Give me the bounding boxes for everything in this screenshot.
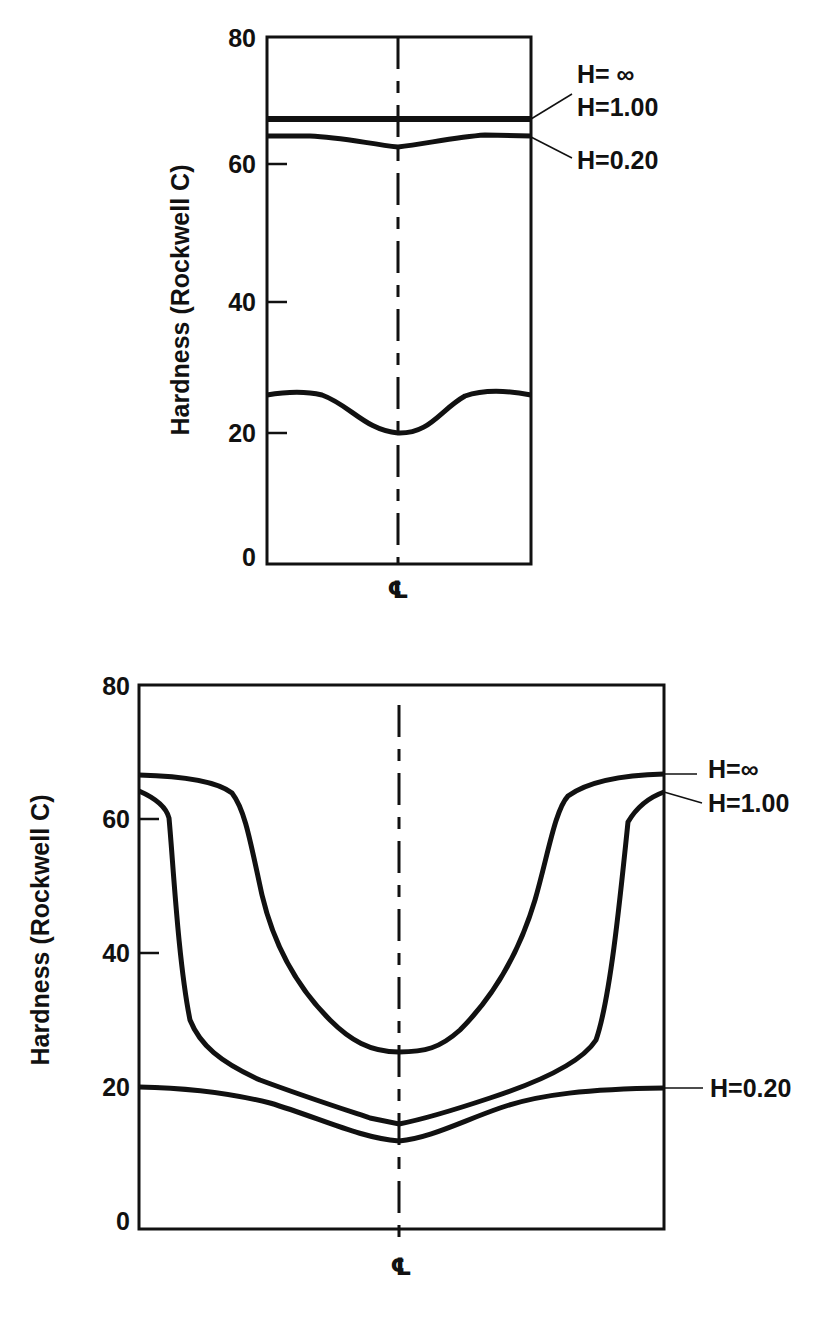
- bottom-ytick-label-80: 80: [102, 672, 130, 700]
- figure-canvas: 80 60 40 20 0 Hardness (Rockwell C) ℄ H=…: [0, 0, 835, 1317]
- bottom-curve-h-100: [139, 791, 664, 1124]
- top-ytick-label-80: 80: [228, 24, 256, 52]
- top-leader-h-1: [531, 94, 572, 119]
- bottom-chart: 80 60 40 20 0 Hardness (Rockwell C) ℄ H=…: [26, 672, 791, 1281]
- top-label-h-100: H=1.00: [577, 93, 658, 121]
- bottom-curve-h-inf: [139, 774, 664, 1052]
- bottom-y-axis-title: Hardness (Rockwell C): [26, 795, 54, 1066]
- top-ytick-label-0: 0: [242, 543, 256, 571]
- bottom-label-h-100: H=1.00: [708, 789, 789, 817]
- bottom-leader-h-100: [664, 792, 702, 803]
- bottom-centerline-label: ℄: [390, 1253, 412, 1281]
- bottom-ytick-label-0: 0: [116, 1207, 130, 1235]
- top-label-h-inf: H= ∞: [577, 60, 634, 88]
- top-leader-h-020: [531, 137, 572, 158]
- bottom-ytick-label-40: 40: [102, 939, 130, 967]
- bottom-label-h-020: H=0.20: [710, 1074, 791, 1102]
- bottom-label-h-inf: H=∞: [708, 755, 758, 783]
- bottom-curve-h-020: [139, 1087, 664, 1141]
- top-y-axis-title: Hardness (Rockwell C): [166, 165, 194, 436]
- top-ytick-label-20: 20: [228, 419, 256, 447]
- bottom-ytick-label-60: 60: [102, 805, 130, 833]
- top-chart: 80 60 40 20 0 Hardness (Rockwell C) ℄ H=…: [166, 24, 658, 604]
- bottom-ytick-label-20: 20: [102, 1073, 130, 1101]
- top-centerline-label: ℄: [387, 576, 409, 604]
- top-ytick-label-40: 40: [228, 288, 256, 316]
- top-ytick-label-60: 60: [228, 150, 256, 178]
- top-label-h-020: H=0.20: [577, 146, 658, 174]
- bottom-plot-frame: [139, 685, 664, 1229]
